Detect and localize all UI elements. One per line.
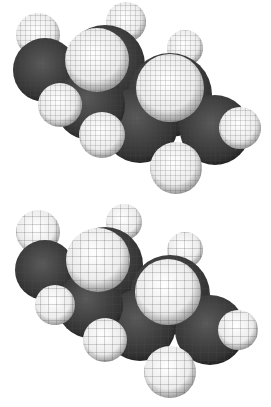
mesh-overlay: [79, 112, 125, 158]
mesh-overlay: [38, 83, 82, 127]
mesh-overlay: [218, 310, 258, 350]
mesh-overlay: [219, 107, 261, 149]
molecule-figure: [0, 0, 271, 407]
molecule-bottom: [15, 204, 258, 398]
mesh-overlay: [135, 259, 201, 325]
molecule-top: [13, 2, 261, 194]
mesh-overlay: [35, 285, 75, 325]
mesh-overlay: [144, 346, 196, 398]
mesh-overlay: [66, 228, 130, 292]
mesh-overlay: [136, 54, 204, 122]
mesh-overlay: [83, 318, 127, 362]
mesh-overlay: [150, 142, 202, 194]
mesh-overlay: [65, 28, 129, 92]
